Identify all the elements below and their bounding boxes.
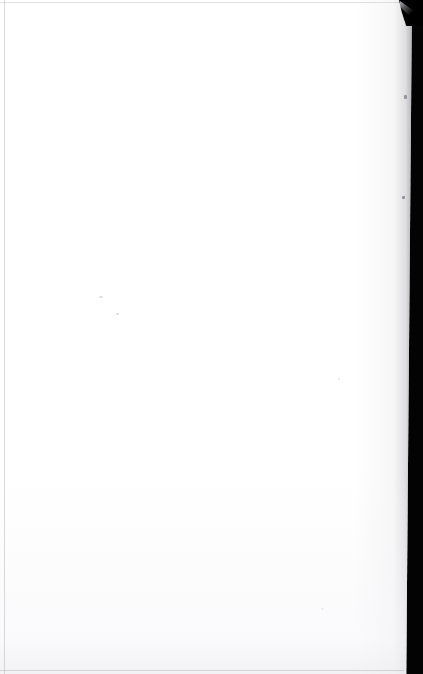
page-edge-line-bottom xyxy=(0,670,404,671)
scanned-page-canvas xyxy=(0,0,423,674)
page-edge-line-left xyxy=(4,0,5,674)
page-edge-line-top xyxy=(0,2,408,3)
paper-sheet xyxy=(0,0,412,674)
